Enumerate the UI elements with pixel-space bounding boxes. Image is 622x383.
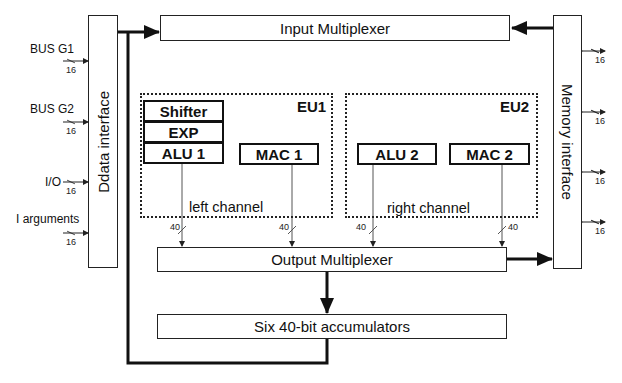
memory-port-width-2: 16 [595, 116, 605, 126]
shifter-block: Shifter [143, 100, 224, 122]
memory-port-width-1: 16 [595, 55, 605, 65]
channel-width-3: 40 [356, 222, 366, 232]
alu2-label: ALU 2 [375, 146, 418, 163]
alu1-block: ALU 1 [143, 142, 224, 164]
channel-width-2: 40 [279, 222, 289, 232]
mac1-label: MAC 1 [256, 146, 303, 163]
accumulators-label: Six 40-bit accumulators [254, 318, 410, 335]
eu2-label: EU2 [500, 98, 529, 115]
output-mux-label: Output Multiplexer [271, 251, 393, 268]
input-label-bus-g2: BUS G2 [30, 102, 74, 116]
input-width-bus-g2: 16 [66, 126, 76, 136]
mac2-label: MAC 2 [466, 146, 513, 163]
mac2-block: MAC 2 [449, 143, 530, 165]
accumulators-block: Six 40-bit accumulators [157, 314, 507, 339]
exp-label: EXP [168, 124, 198, 141]
data-interface-block: Ddata interface [88, 15, 118, 268]
channel-width-1: 40 [170, 222, 180, 232]
memory-port-width-4: 16 [595, 226, 605, 236]
left-channel-label: left channel [189, 199, 263, 215]
right-channel-label: right channel [387, 200, 470, 216]
channel-width-4: 40 [508, 222, 518, 232]
memory-port-width-3: 16 [595, 176, 605, 186]
input-width-i-arguments: 16 [66, 237, 76, 247]
data-interface-label: Ddata interface [95, 91, 112, 193]
input-label-io: I/O [45, 175, 61, 189]
eu1-label: EU1 [297, 98, 326, 115]
alu1-label: ALU 1 [162, 145, 205, 162]
output-mux-block: Output Multiplexer [157, 247, 507, 272]
input-mux-label: Input Multiplexer [280, 20, 390, 37]
input-width-io: 16 [66, 186, 76, 196]
memory-interface-label: Memory interface [559, 84, 576, 200]
input-mux-block: Input Multiplexer [160, 15, 510, 41]
alu2-block: ALU 2 [357, 143, 437, 165]
exp-block: EXP [143, 121, 224, 143]
input-label-i-arguments: I arguments [16, 212, 79, 226]
mac1-block: MAC 1 [239, 143, 319, 165]
input-label-bus-g1: BUS G1 [30, 42, 74, 56]
memory-interface-block: Memory interface [553, 15, 582, 269]
shifter-label: Shifter [160, 103, 208, 120]
input-width-bus-g1: 16 [66, 65, 76, 75]
